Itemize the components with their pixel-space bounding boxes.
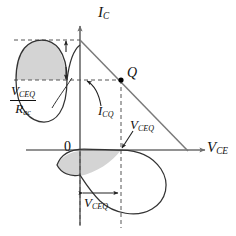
vceq-upper-label: VCEQ: [130, 118, 154, 133]
vceq-lower-label: VCEQ: [84, 196, 108, 211]
ic-swing-curve-tail: [67, 45, 80, 80]
vceq-leader-arrow: [122, 131, 133, 148]
q-point-marker: [118, 77, 123, 82]
ic-axis-label: IC: [98, 5, 109, 22]
vce-axis-label: VCE: [207, 140, 228, 157]
ic-swing-shaded-area: [16, 40, 67, 80]
icq-label: ICQ: [98, 104, 114, 119]
ac-load-line: [80, 40, 188, 151]
origin-label: 0: [64, 140, 71, 154]
fraction-numerator: VCEQ: [10, 84, 36, 99]
fraction-denominator: Rac: [10, 102, 36, 117]
vceq-over-rac-label: VCEQ Rac: [10, 84, 36, 118]
q-point-label: Q: [127, 66, 137, 80]
fraction-leader-line: [52, 78, 72, 108]
ac-load-line-figure: [0, 0, 236, 236]
